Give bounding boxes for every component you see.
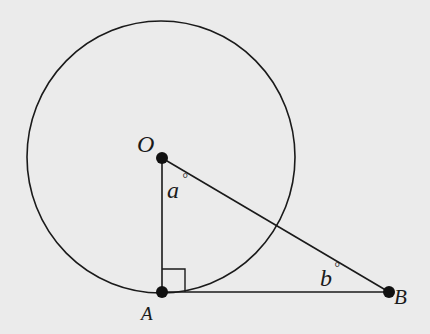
angle-label-a: a (167, 177, 179, 203)
point-o (156, 152, 168, 164)
paper-background (0, 0, 430, 334)
label-a-point: A (139, 303, 153, 324)
label-o: O (137, 131, 154, 157)
angle-degree-a: ° (182, 171, 188, 186)
label-b-point: B (394, 285, 407, 309)
geometry-diagram: O A B a ° b ° (0, 0, 430, 334)
angle-label-b: b (320, 265, 332, 291)
angle-degree-b: ° (334, 260, 340, 275)
point-a (156, 286, 168, 298)
